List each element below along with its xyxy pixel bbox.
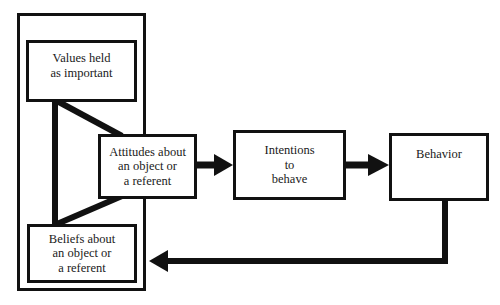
beliefs-text-line: an object or	[49, 246, 115, 261]
beliefs-attitudes-line	[57, 196, 122, 224]
behavior-box: Behavior	[389, 133, 489, 201]
intentions-text-line: to	[265, 158, 315, 173]
intentions-text-line: behave	[265, 172, 315, 187]
beliefs-text-line: a referent	[49, 261, 115, 276]
beliefs-box: Beliefs about an object or a referent	[27, 224, 137, 283]
intentions-behavior-arrow	[345, 154, 389, 176]
values-text-line: as important	[50, 66, 112, 81]
attitudes-text-line: an object or	[109, 159, 186, 174]
attitudes-text-line: a referent	[109, 174, 186, 189]
intentions-box: Intentions to behave	[233, 130, 346, 200]
intentions-text-line: Intentions	[265, 143, 315, 158]
attitudes-box: Attitudes about an object or a referent	[98, 134, 197, 199]
values-attitudes-line	[57, 101, 122, 136]
behavior-beliefs-feedback-arrow	[149, 199, 448, 272]
beliefs-text-line: Beliefs about	[49, 232, 115, 247]
values-box: Values held as important	[26, 40, 137, 102]
values-text-line: Values held	[50, 51, 112, 66]
attitudes-intentions-arrow	[196, 154, 233, 176]
behavior-text-line: Behavior	[416, 147, 462, 162]
attitudes-text-line: Attitudes about	[109, 145, 186, 160]
